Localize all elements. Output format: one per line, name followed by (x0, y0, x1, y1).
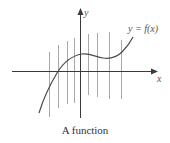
function-curve (39, 37, 133, 113)
vertical-line-test-lines (50, 32, 122, 117)
curve-label: y = f(x) (127, 23, 159, 35)
y-axis-arrow-icon (78, 8, 84, 15)
function-diagram: y x y = f(x) A function (0, 0, 170, 143)
x-axis (12, 69, 158, 75)
y-axis-label: y (83, 7, 89, 18)
y-axis (78, 8, 84, 118)
x-axis-label: x (156, 73, 162, 84)
caption: A function (62, 124, 109, 136)
